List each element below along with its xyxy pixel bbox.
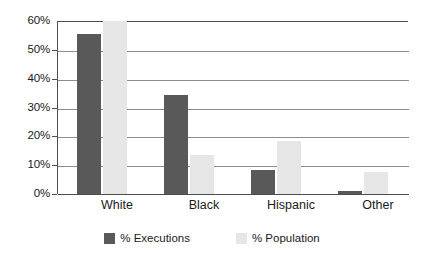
- legend-item-executions: % Executions: [104, 232, 190, 244]
- y-tick-label-10: 10%: [0, 159, 50, 171]
- bars-layer: [57, 21, 408, 194]
- gridline-baseline-0: [58, 194, 409, 195]
- x-tick-label-hispanic: Hispanic: [251, 198, 331, 213]
- x-tick-label-other: Other: [338, 198, 418, 213]
- y-tick-label-50: 50%: [0, 44, 50, 56]
- bar-group-hispanic: [251, 21, 331, 194]
- y-tick-label-40: 40%: [0, 73, 50, 85]
- bar-black-population: [190, 155, 214, 194]
- bar-group-other: [338, 21, 418, 194]
- bar-hispanic-executions: [251, 170, 275, 195]
- legend-swatch-executions-icon: [104, 233, 115, 244]
- y-tick-mark-0: [52, 194, 57, 195]
- bar-other-population: [364, 172, 388, 194]
- chart-legend: % Executions % Population: [0, 229, 424, 247]
- bar-black-executions: [164, 95, 188, 194]
- bar-white-population: [103, 21, 127, 194]
- x-tick-label-black: Black: [164, 198, 244, 213]
- bar-chart: 60% 50% 40% 30% 20% 10% 0%: [0, 0, 424, 258]
- y-axis-labels: 60% 50% 40% 30% 20% 10% 0%: [0, 21, 52, 194]
- y-tick-label-60: 60%: [0, 15, 50, 27]
- legend-swatch-population-icon: [236, 233, 247, 244]
- y-tick-label-20: 20%: [0, 130, 50, 142]
- legend-label-executions: % Executions: [120, 232, 190, 244]
- bar-white-executions: [77, 34, 101, 194]
- x-tick-label-white: White: [77, 198, 157, 213]
- bar-group-black: [164, 21, 244, 194]
- y-tick-label-0: 0%: [0, 188, 50, 200]
- bar-group-white: [77, 21, 157, 194]
- legend-item-population: % Population: [236, 232, 320, 244]
- x-axis-labels: White Black Hispanic Other: [57, 198, 408, 216]
- bar-hispanic-population: [277, 141, 301, 194]
- bar-other-executions: [338, 191, 362, 194]
- legend-label-population: % Population: [252, 232, 320, 244]
- y-tick-label-30: 30%: [0, 102, 50, 114]
